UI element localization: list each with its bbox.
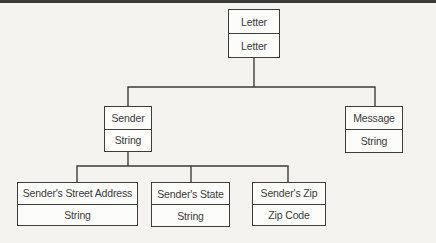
node-senders-street-address-title: Sender's Street Address [18,183,137,204]
node-message-subtitle: String [346,129,402,152]
node-message: Message String [345,106,403,153]
node-letter-title: Letter [229,10,279,33]
node-senders-street-address: Sender's Street Address String [17,182,138,226]
node-senders-zip-subtitle: Zip Code [253,204,325,226]
node-senders-state-title: Sender's State [152,183,229,204]
node-sender-subtitle: String [105,129,151,152]
node-senders-state: Sender's State String [151,182,230,227]
node-letter: Letter Letter [228,9,280,58]
node-senders-street-address-subtitle: String [18,204,137,226]
node-sender-title: Sender [105,107,151,129]
diagram-canvas: Letter Letter Sender String Message Stri… [0,0,436,243]
node-senders-state-subtitle: String [152,204,229,226]
node-senders-zip: Sender's Zip Zip Code [252,182,326,226]
node-message-title: Message [346,107,402,129]
node-senders-zip-title: Sender's Zip [253,183,325,204]
node-letter-subtitle: Letter [229,33,279,57]
node-sender: Sender String [104,106,152,152]
